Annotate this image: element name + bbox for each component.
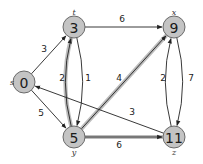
edge-weight-y-t: 1 bbox=[85, 73, 91, 83]
node-name-label: y bbox=[71, 148, 77, 157]
node-distance-value: 9 bbox=[170, 20, 179, 36]
edge-z-x bbox=[165, 39, 171, 127]
node-name-label: z bbox=[171, 148, 177, 157]
edge-weight-x-z: 2 bbox=[160, 73, 166, 83]
edge-weight-s-t: 3 bbox=[41, 44, 47, 54]
node-z: 11z bbox=[163, 126, 185, 157]
shaded-edges-layer bbox=[65, 36, 166, 137]
edge-weight-z-s: 3 bbox=[129, 107, 135, 117]
node-name-label: x bbox=[172, 8, 177, 17]
edge-weight-y-x: 4 bbox=[116, 73, 122, 83]
node-x: 9x bbox=[163, 8, 185, 39]
edge-s-t bbox=[31, 36, 66, 74]
edge-x-z bbox=[177, 38, 183, 126]
edge-weight-t-y: 2 bbox=[59, 73, 65, 83]
node-t: 3t bbox=[63, 8, 85, 39]
edge-weight-t-x: 6 bbox=[119, 14, 125, 24]
node-y: 5y bbox=[63, 126, 85, 157]
node-s: 0s bbox=[10, 71, 35, 93]
edge-weight-z-x: 7 bbox=[188, 73, 194, 83]
node-name-label: s bbox=[10, 78, 14, 87]
edge-t-y bbox=[77, 38, 83, 126]
node-name-label: t bbox=[72, 8, 76, 17]
node-distance-value: 11 bbox=[165, 130, 183, 146]
edge-weight-y-z: 6 bbox=[116, 140, 122, 150]
node-distance-value: 5 bbox=[70, 130, 79, 146]
nodes-layer: 0s3t9x5y11z bbox=[10, 8, 185, 157]
node-distance-value: 0 bbox=[20, 75, 29, 91]
shortest-path-graph: 3562146273 0s3t9x5y11z bbox=[0, 0, 203, 164]
edge-z-s bbox=[35, 86, 163, 133]
edge-weight-s-y: 5 bbox=[38, 108, 44, 118]
edge-y-x bbox=[81, 36, 166, 129]
node-distance-value: 3 bbox=[70, 20, 79, 36]
